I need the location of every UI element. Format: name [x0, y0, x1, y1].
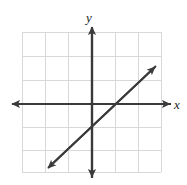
plotted-line-group — [48, 66, 156, 168]
plotted-line-arrow-upper — [49, 67, 155, 167]
graph-svg: y x — [0, 0, 187, 185]
coordinate-plane-figure: y x — [0, 0, 187, 185]
axes-group — [12, 27, 171, 178]
y-axis-label: y — [84, 10, 92, 25]
x-axis-label: x — [173, 97, 180, 112]
